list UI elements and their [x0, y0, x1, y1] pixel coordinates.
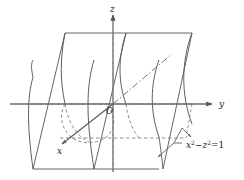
front-left-hyperbola-branch: [29, 77, 34, 169]
front-right-hyperbola-branch: [152, 60, 159, 137]
svg-text:x2−z2=1: x2−z2=1: [186, 139, 224, 150]
figure-canvas: z y x O x2−z2=1: [0, 0, 244, 180]
z-axis-label: z: [109, 4, 115, 14]
axes-group: [10, 15, 212, 172]
back-left-hyperbola-hidden: [65, 104, 89, 142]
front-left-hyperbola-upper: [32, 60, 34, 77]
equation-minus: −: [195, 140, 203, 150]
back-center-hyperbola-hidden: [126, 104, 139, 138]
negative-x-axis-dashdot: [113, 54, 172, 104]
hyperbolic-cylinder-figure: z y x O x2−z2=1: [0, 0, 244, 180]
equation-label: x2−z2=1: [186, 139, 224, 150]
y-axis-label: y: [218, 99, 225, 109]
ruling-lines-group: [33, 33, 126, 169]
front-center-hyperbola-branch: [88, 60, 94, 169]
back-left-hyperbola-branch: [61, 33, 65, 104]
origin-label: O: [106, 106, 113, 116]
equation-equals: =: [211, 140, 219, 150]
right-branch-group: [88, 33, 192, 169]
equation-rhs: 1: [219, 140, 225, 150]
x-axis-label: x: [57, 146, 62, 156]
